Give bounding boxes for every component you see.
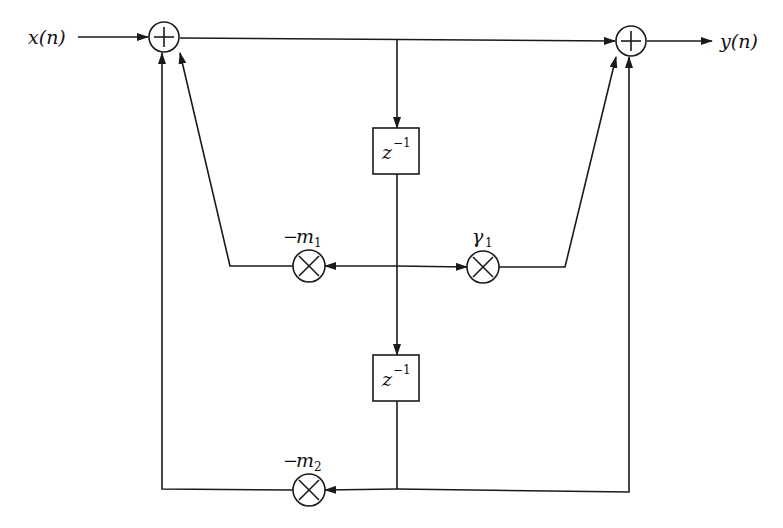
delay-block-2: z −1	[373, 355, 419, 401]
delay-1-base: z	[381, 141, 393, 163]
m1-coef: m	[296, 225, 314, 247]
multiplier-m1	[293, 250, 325, 282]
delay-2-exponent: −1	[393, 363, 411, 377]
arrow-to-gamma1	[397, 266, 467, 267]
m2-feedback	[162, 53, 293, 490]
m2-coef: m	[296, 449, 314, 471]
gamma1-coef: γ	[472, 225, 484, 247]
gamma1-feedforward	[499, 57, 616, 267]
multiplier-gamma1	[467, 251, 499, 283]
delay-2-base: z	[381, 368, 393, 390]
delay-1-exponent: −1	[393, 136, 411, 150]
adder-input	[149, 22, 179, 52]
m1-feedback	[180, 53, 293, 266]
bottom-to-output-adder	[397, 57, 629, 492]
gamma1-sub: 1	[485, 236, 493, 250]
m2-sub: 2	[314, 460, 322, 474]
m1-sub: 1	[314, 236, 322, 250]
output-label: y(n)	[719, 30, 758, 52]
multiplier-m2	[293, 474, 325, 506]
adder-output	[616, 26, 646, 56]
input-label: x(n)	[28, 26, 66, 48]
block-diagram: x(n) y(n) z −1 − m 1 γ 1 z −1	[0, 0, 783, 528]
delay-block-1: z −1	[373, 128, 419, 174]
arrow-to-m2	[325, 489, 397, 490]
